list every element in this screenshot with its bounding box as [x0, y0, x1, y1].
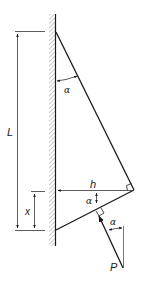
dimension-h: h [58, 178, 132, 191]
label-P: P [110, 261, 118, 273]
lower-strut [56, 190, 134, 230]
wall-hatching [49, 14, 55, 246]
angle-top: α [57, 76, 77, 95]
wall [49, 14, 56, 246]
label-h: h [90, 178, 96, 190]
label-L: L [7, 126, 13, 138]
strut-frame [56, 32, 134, 230]
label-alpha-force: α [110, 217, 116, 227]
angle-top-arc [57, 76, 77, 81]
dimension-L: L [7, 32, 45, 231]
label-alpha-top: α [64, 85, 70, 95]
upper-strut [56, 32, 134, 190]
angle-lower: α [86, 193, 97, 206]
force-P: α P [96, 208, 124, 273]
label-alpha-lower: α [86, 196, 92, 206]
label-x: x [24, 206, 31, 217]
mechanics-diagram: L x h α α α P [0, 0, 150, 286]
angle-force-arc [109, 228, 122, 230]
dimension-x: x [24, 192, 45, 229]
